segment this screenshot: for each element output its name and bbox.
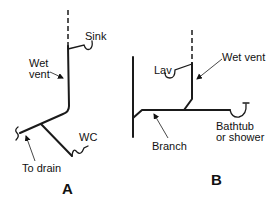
- wc-label: WC: [79, 131, 97, 143]
- wet-vent-label-a-line2: vent: [29, 68, 50, 80]
- to-drain-arrow: [26, 136, 35, 161]
- wet-vent-arrow-a: [50, 72, 63, 78]
- diagram-a: Sink Wet vent WC To drain A: [16, 10, 107, 197]
- wc-branch-pipe: [41, 124, 72, 156]
- to-drain-label: To drain: [22, 162, 61, 174]
- sink-trap-icon: [68, 41, 92, 50]
- horizontal-branch-pipe: [133, 110, 230, 118]
- wet-vent-label-b: Wet vent: [222, 51, 265, 63]
- sink-label: Sink: [85, 30, 107, 42]
- lav-label: Lav: [154, 64, 172, 76]
- wc-trap-icon: [72, 146, 88, 156]
- diagram-b: Lav Wet vent Branch Bathtub or shower B: [133, 30, 265, 188]
- wet-vent-arrow-b: [197, 59, 222, 79]
- bathtub-label-line2: or shower: [216, 131, 265, 143]
- drain-break-icon: [16, 127, 19, 140]
- wet-vent-diagram: Sink Wet vent WC To drain A Lav Wet vent…: [0, 0, 277, 202]
- bathtub-trap-icon: [230, 104, 246, 117]
- caption-a: A: [62, 180, 73, 197]
- branch-label: Branch: [152, 140, 187, 152]
- caption-b: B: [211, 171, 222, 188]
- branch-arrow: [154, 114, 168, 138]
- wet-vent-pipe-b: [184, 63, 192, 110]
